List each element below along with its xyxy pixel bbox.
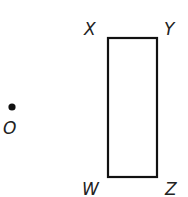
- label-w: W: [82, 179, 100, 197]
- geometry-diagram: X Y W Z O: [0, 0, 188, 197]
- rectangle-wxyz: [108, 38, 157, 177]
- label-z: Z: [164, 179, 177, 197]
- label-x: X: [83, 19, 96, 39]
- label-o: O: [3, 118, 16, 138]
- label-y: Y: [164, 19, 176, 39]
- point-o-dot: [8, 103, 15, 110]
